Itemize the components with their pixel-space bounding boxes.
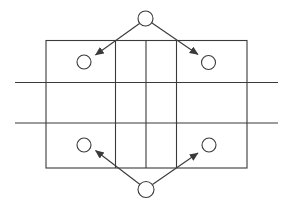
- bottom-left-hole: [77, 138, 91, 152]
- bottom-right-hole: [202, 138, 216, 152]
- bottom-right-arrow: [153, 153, 199, 185]
- diagram-canvas: [0, 0, 288, 206]
- bottom-callout-circle: [138, 182, 154, 198]
- top-left-arrow: [96, 24, 140, 56]
- top-left-hole: [77, 55, 91, 69]
- top-right-arrow: [152, 23, 198, 55]
- plate-callout-diagram: [0, 0, 288, 206]
- top-right-hole: [202, 56, 216, 70]
- top-callout-circle: [138, 11, 153, 26]
